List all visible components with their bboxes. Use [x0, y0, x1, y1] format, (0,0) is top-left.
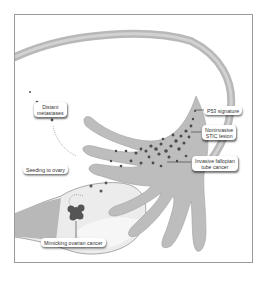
label-invasive-cancer: Invasive fallopian tube cancer [192, 156, 238, 171]
invasive-text-2: tube cancer [195, 164, 235, 170]
seeding-text: Seeding to ovary [26, 167, 65, 173]
label-seeding-to-ovary: Seeding to ovary [23, 165, 68, 174]
label-mimicking-ovarian-cancer: Mimicking ovarian cancer [41, 238, 106, 247]
label-p53-signature: P53 signature [204, 106, 242, 115]
mimicking-text: Mimicking ovarian cancer [44, 240, 103, 246]
distant-text-2: metastases [37, 110, 64, 116]
stic-text-1: Noninvasive [205, 127, 233, 133]
label-distant-metastases: Distant metastases [34, 102, 67, 117]
diagram-frame: P53 signature Noninvasive STIC lesion In… [14, 14, 253, 263]
label-stic-lesion: Noninvasive STIC lesion [202, 125, 236, 140]
stic-text-2: STIC lesion [205, 133, 233, 139]
ovarian-ligament [15, 198, 61, 241]
p53-text: P53 signature [207, 108, 239, 114]
metastasis-arrow [53, 126, 76, 156]
invasive-text-1: Invasive fallopian [195, 158, 235, 164]
